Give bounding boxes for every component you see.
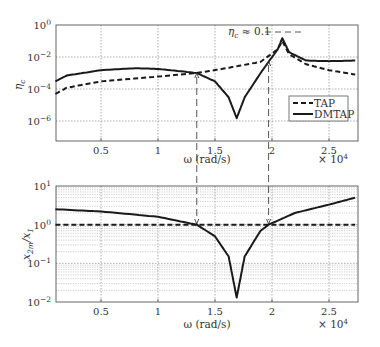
top-grid — [56, 25, 358, 141]
eta-annotation: ηc ≈ 0.1 — [228, 25, 305, 40]
series-dmtap — [55, 198, 355, 298]
x-tick-label: 1 — [155, 145, 161, 156]
top-y-axis-ticks: 10010−210−410−6 — [27, 18, 51, 127]
x-tick-label: 1.5 — [207, 306, 223, 317]
y-tick-label: 101 — [33, 179, 51, 192]
x-tick-label: 2 — [269, 145, 275, 156]
x-tick-label: 2 — [269, 306, 275, 317]
x-tick-label: 2.5 — [321, 306, 337, 317]
legend-dmtap-label: DMTAP — [314, 108, 354, 120]
top-plot: 10010−210−410−6 0.511.522.5 ηc ω (rad/s)… — [12, 18, 358, 165]
top-x-axis-label: ω (rad/s) — [183, 153, 230, 165]
bottom-x-axis-label: ω (rad/s) — [183, 318, 230, 330]
y-tick-label: 100 — [33, 18, 51, 31]
arrow-down-icon — [195, 219, 199, 224]
y-tick-label: 10−2 — [27, 50, 51, 63]
x-tick-label: 1 — [155, 306, 161, 317]
top-y-axis-label: ηc — [12, 79, 27, 90]
series-tap — [55, 41, 355, 94]
crossing-guides — [195, 61, 271, 224]
bottom-plot-frame — [56, 186, 358, 302]
bottom-plot: 10110010−110−2 0.511.522.5 x2m/x1 ω (rad… — [20, 179, 358, 330]
top-plot-frame — [56, 25, 358, 141]
bottom-y-axis-label: x2m/x1 — [20, 228, 35, 260]
y-tick-label: 10−6 — [27, 114, 51, 127]
eta-annotation-text: ηc ≈ 0.1 — [228, 25, 271, 40]
bottom-series — [55, 198, 355, 298]
x-tick-label: 0.5 — [93, 306, 109, 317]
x-tick-label: 0.5 — [93, 145, 109, 156]
top-x-multiplier: × 104 — [318, 153, 349, 165]
y-tick-label: 10−4 — [27, 82, 51, 95]
bottom-x-multiplier: × 104 — [318, 318, 349, 330]
y-tick-label: 100 — [33, 218, 51, 231]
bottom-grid — [56, 186, 358, 302]
chart-figure: 10010−210−410−6 0.511.522.5 ηc ω (rad/s)… — [0, 0, 380, 347]
legend: TAP DMTAP — [289, 96, 354, 121]
y-tick-label: 10−2 — [27, 295, 51, 308]
